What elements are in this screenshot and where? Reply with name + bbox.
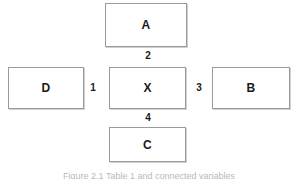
diagram-canvas: A 2 D 1 X 3 B 4 C Figure 2.1 Table 1 and… xyxy=(0,0,298,179)
edge-label-3: 3 xyxy=(192,83,206,93)
node-label-b: B xyxy=(247,82,256,94)
node-box-x: X xyxy=(109,67,186,109)
node-label-c: C xyxy=(143,139,152,151)
edge-label-4: 4 xyxy=(129,113,167,123)
node-label-a: A xyxy=(142,19,151,31)
node-box-a: A xyxy=(105,3,187,47)
edge-label-2: 2 xyxy=(129,51,167,61)
node-label-d: D xyxy=(42,82,51,94)
node-label-x: X xyxy=(143,82,151,94)
edge-label-1: 1 xyxy=(86,83,100,93)
node-box-b: B xyxy=(212,67,290,109)
node-box-c: C xyxy=(109,127,186,162)
node-box-d: D xyxy=(8,67,84,109)
figure-caption: Figure 2.1 Table 1 and connected variabl… xyxy=(0,171,298,179)
